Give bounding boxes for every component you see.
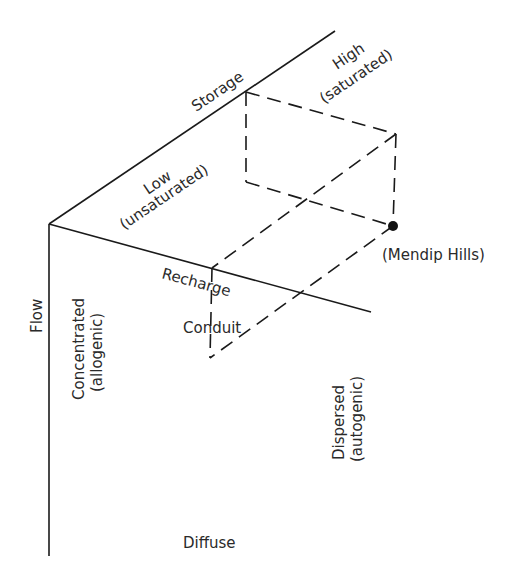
dashed-bottom-edge — [246, 182, 393, 226]
dashed-rear-diagonal — [212, 134, 396, 268]
dashed-front-diagonal — [210, 226, 393, 358]
concentrated-label: Concentrated — [70, 298, 88, 400]
dispersed-label: Dispersed — [330, 385, 348, 460]
mendip-hills-point — [388, 221, 398, 231]
karst-classification-diagram: Storage High (saturated) Low (unsaturate… — [0, 0, 530, 582]
concentrated-sub-label: (allogenic) — [88, 313, 106, 392]
dispersed-sub-label: (autogenic) — [348, 376, 366, 462]
conduit-label: Conduit — [183, 319, 241, 337]
recharge-label: Recharge — [160, 264, 233, 300]
flow-label: Flow — [28, 299, 46, 333]
diffuse-label: Diffuse — [183, 534, 236, 552]
mendip-hills-label: (Mendip Hills) — [382, 246, 485, 264]
dashed-right-vertical — [393, 134, 396, 226]
recharge-axis — [49, 224, 371, 312]
storage-label: Storage — [188, 68, 247, 116]
